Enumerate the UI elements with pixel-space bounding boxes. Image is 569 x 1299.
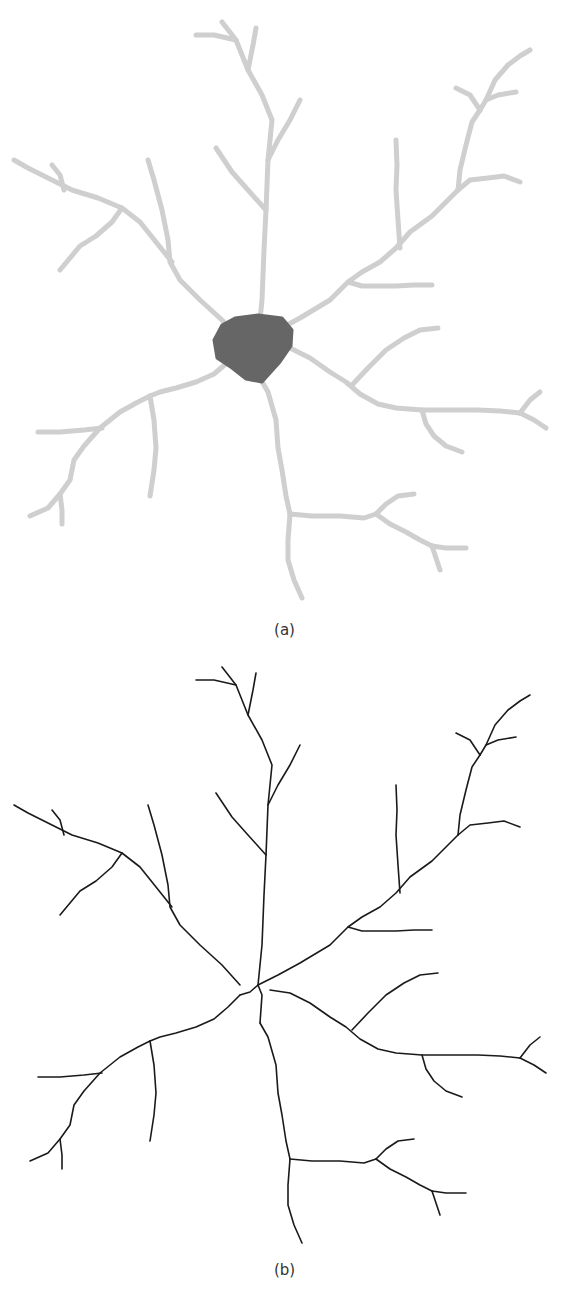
skeleton-branch — [288, 1159, 302, 1243]
dendrite-branch — [422, 410, 462, 452]
dendrite-branch — [432, 546, 466, 548]
skeleton-branch — [290, 1159, 376, 1163]
skeleton-branch — [60, 1139, 62, 1169]
dendrite-branch — [30, 396, 150, 516]
skeleton-branch — [376, 1159, 432, 1191]
skeleton-branch — [258, 835, 458, 985]
neuron-skeleton-image — [0, 645, 569, 1255]
dendrite-branch — [288, 514, 302, 598]
dendrite-branch — [14, 160, 172, 262]
skeleton-branch — [520, 1058, 546, 1073]
skeleton-branch — [268, 745, 300, 805]
panel-a-segmented-neuron — [0, 0, 569, 610]
skeleton-branch — [486, 695, 530, 745]
dendrite-branch — [396, 140, 400, 248]
skeleton-branch — [270, 990, 520, 1058]
skeleton-center — [240, 985, 262, 1023]
dendrite-branch — [270, 345, 520, 413]
skeleton-branch — [376, 1139, 414, 1159]
dendrite-branch — [258, 190, 458, 340]
dendrite-branch — [376, 494, 414, 514]
skeleton-branch — [432, 1191, 440, 1215]
skeleton-branch — [150, 995, 240, 1041]
dendrite-branch — [60, 494, 62, 524]
panel-a-caption: (a) — [0, 621, 569, 639]
skeleton-branch — [260, 1023, 290, 1159]
dendrite-branch — [260, 378, 290, 514]
skeleton-branch — [458, 821, 520, 835]
dendrite-branch — [216, 148, 266, 210]
skeleton-branch — [456, 733, 480, 755]
skeleton-branch — [60, 853, 122, 915]
dendrite-branch — [520, 392, 540, 413]
skeleton-branch — [248, 673, 256, 715]
skeleton-branch — [216, 793, 266, 855]
panel-b-caption: (b) — [0, 1261, 569, 1279]
skeleton-branch — [38, 1073, 102, 1077]
dendrite-branch — [290, 514, 376, 518]
dendrite-branch — [60, 208, 122, 270]
dendrite-branch — [348, 282, 432, 286]
skeleton-branch — [52, 810, 64, 835]
dendrite-branch — [376, 514, 432, 546]
skeleton-branch — [432, 1191, 466, 1193]
skeleton-branch — [30, 1041, 150, 1161]
skeleton-branch — [196, 680, 236, 685]
skeleton-branch — [458, 755, 480, 835]
dendrite-branch — [352, 328, 438, 385]
skeleton-branch — [348, 927, 432, 931]
neuron-segmentation-image — [0, 0, 569, 610]
soma — [214, 315, 292, 382]
skeleton-branch — [396, 785, 400, 893]
skeleton-branch — [520, 1037, 540, 1058]
skeleton-branch — [480, 737, 516, 755]
skeleton-branch — [222, 667, 272, 985]
dendrite-branch — [150, 396, 156, 496]
dendrite-branch — [458, 176, 520, 190]
dendrite-branch — [38, 428, 102, 432]
dendrite-branch — [248, 28, 256, 70]
dendrite-branch — [432, 546, 440, 570]
dendrite-branch — [52, 165, 64, 190]
dendrite-branch — [456, 88, 480, 110]
skeleton-branch — [14, 805, 172, 907]
skeleton-branch — [150, 1041, 156, 1141]
panel-b-skeleton — [0, 645, 569, 1255]
skeleton-branch — [352, 973, 438, 1030]
skeleton-branch — [422, 1055, 462, 1097]
dendrite-branch — [520, 413, 546, 428]
